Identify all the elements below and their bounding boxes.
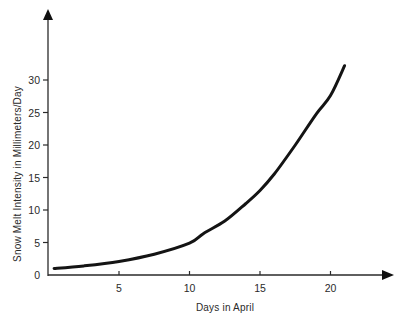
y-tick-label: 0	[34, 269, 40, 281]
y-ticks: 051015202530	[28, 74, 48, 281]
snow-melt-chart: 5101520 051015202530 Days in April Snow …	[0, 0, 401, 324]
x-axis-label: Days in April	[196, 302, 254, 313]
snow-melt-curve	[54, 66, 345, 269]
axes	[43, 9, 394, 280]
x-tick-label: 5	[116, 282, 122, 294]
x-tick-label: 20	[325, 282, 337, 294]
y-tick-label: 30	[28, 74, 40, 86]
y-axis-arrow-icon	[43, 9, 53, 20]
x-tick-label: 15	[254, 282, 266, 294]
x-axis-arrow-icon	[382, 270, 394, 280]
y-tick-label: 25	[28, 107, 40, 119]
y-tick-label: 20	[28, 139, 40, 151]
y-tick-label: 15	[28, 172, 40, 184]
y-axis-label: Snow Melt Intensity in Millimeters/Day	[12, 86, 23, 262]
y-tick-label: 5	[34, 237, 40, 249]
y-tick-label: 10	[28, 204, 40, 216]
x-tick-label: 10	[184, 282, 196, 294]
